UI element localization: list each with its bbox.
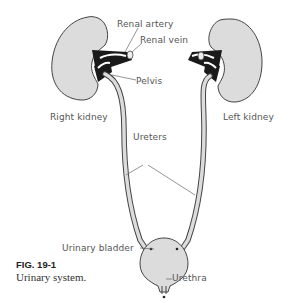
label-right-kidney: Right kidney — [50, 113, 108, 122]
urinary-bladder — [140, 238, 188, 298]
label-left-kidney: Left kidney — [223, 113, 274, 122]
urinary-system-diagram — [0, 0, 302, 303]
figure-number: FIG. 19-1 — [16, 259, 56, 270]
label-urethra: Urethra — [172, 274, 207, 283]
left-kidney — [180, 19, 262, 252]
label-ureters: Ureters — [133, 133, 167, 142]
figure-caption: Urinary system. — [16, 271, 86, 283]
label-urinary-bladder: Urinary bladder — [62, 244, 134, 253]
label-renal-artery: Renal artery — [117, 20, 173, 29]
label-pelvis: Pelvis — [136, 77, 162, 86]
label-renal-vein: Renal vein — [140, 36, 188, 45]
